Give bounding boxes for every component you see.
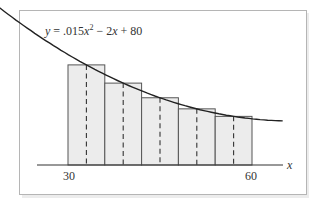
x-axis-label: x: [286, 158, 293, 172]
x-tick-60: 60: [245, 169, 257, 183]
x-tick-30: 30: [63, 169, 75, 183]
equation-label: y = .015x2 − 2x + 80: [44, 23, 142, 38]
chart-figure: y = .015x2 − 2x + 80 x 30 60: [0, 0, 328, 209]
bar-5: [215, 116, 252, 165]
